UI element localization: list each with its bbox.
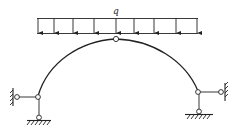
right-wall-hinge (219, 90, 224, 95)
crown-hinge (113, 36, 118, 41)
left-ground-hinge (37, 115, 42, 120)
arch-diagram: q (0, 0, 235, 133)
load-label: q (113, 6, 119, 16)
right-ground-hatch (187, 115, 210, 119)
distributed-load (37, 19, 198, 34)
right-base-hinge (196, 90, 201, 95)
right-support (185, 82, 228, 119)
load-arrows (38, 19, 197, 34)
right-ground-hinge (197, 109, 202, 114)
left-wall-hinge (15, 95, 20, 100)
left-support (10, 88, 51, 125)
left-ground-hatch (27, 121, 50, 125)
left-base-hinge (36, 95, 41, 100)
arch-curve (38, 39, 198, 96)
